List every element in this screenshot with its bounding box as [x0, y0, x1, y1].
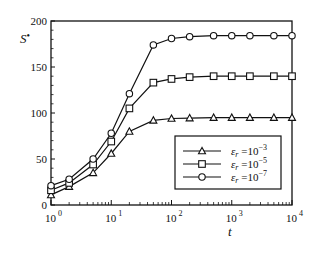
square-marker: [228, 73, 235, 80]
x-tick-label: 102: [166, 209, 183, 224]
circle-marker: [289, 33, 295, 39]
circle-marker: [108, 130, 114, 136]
circle-marker: [229, 33, 235, 39]
chart: 050100150200100101102103104 εr =10−3εr =…: [0, 0, 310, 255]
square-marker: [126, 105, 133, 112]
square-marker: [210, 73, 217, 80]
square-marker: [289, 73, 296, 80]
x-tick-label: 104: [286, 209, 303, 224]
y-tick-label: 0: [42, 199, 48, 211]
y-axis-title: S•: [20, 30, 30, 46]
legend: εr =10−3εr =10−5εr =10−7: [175, 136, 281, 189]
square-marker: [186, 74, 193, 81]
circle-marker: [271, 33, 277, 39]
y-tick-label: 50: [36, 153, 48, 165]
x-tick-label: 101: [105, 209, 122, 224]
circle-marker: [66, 176, 72, 182]
circle-marker: [168, 35, 174, 41]
square-marker: [247, 73, 254, 80]
circle-marker: [90, 156, 96, 162]
x-tick-label: 103: [226, 209, 243, 224]
x-tick-label: 100: [45, 209, 62, 224]
circle-marker: [126, 90, 132, 96]
x-axis-title: t: [228, 224, 232, 239]
legend-square-marker: [199, 161, 206, 168]
triangle-marker: [126, 128, 133, 134]
circle-marker: [186, 33, 192, 39]
circle-marker: [210, 33, 216, 39]
circle-marker: [247, 33, 253, 39]
circle-marker: [48, 182, 54, 188]
y-tick-label: 100: [31, 107, 48, 119]
legend-circle-marker: [199, 174, 205, 180]
square-marker: [168, 76, 175, 83]
y-tick-label: 150: [31, 61, 48, 73]
square-marker: [108, 138, 115, 145]
square-marker: [150, 79, 157, 86]
y-tick-label: 200: [31, 15, 48, 27]
square-marker: [271, 73, 278, 80]
circle-marker: [150, 42, 156, 48]
